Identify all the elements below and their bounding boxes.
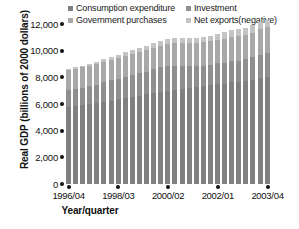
- bar: [243, 28, 248, 184]
- bar-segment-government: [172, 43, 177, 65]
- bar-segment-government: [137, 52, 142, 73]
- bar-segment-consumption: [229, 82, 234, 184]
- bar-segment-consumption: [94, 103, 99, 184]
- bar-segment-investment: [73, 89, 78, 106]
- legend-label: Consumption expenditure: [76, 3, 175, 14]
- bar: [66, 69, 71, 184]
- bar-segment-consumption: [187, 88, 192, 184]
- y-axis-tick: 12,000: [30, 18, 64, 30]
- bar-segment-government: [208, 41, 213, 64]
- bar: [87, 64, 92, 184]
- bar: [222, 32, 227, 184]
- bar-segment-consumption: [87, 104, 92, 184]
- y-axis-tick: 4,000: [35, 125, 64, 137]
- bar-segment-investment: [123, 77, 128, 98]
- bar-segment-government: [258, 29, 263, 54]
- y-axis-tick: 2,000: [35, 151, 64, 163]
- bar: [208, 36, 213, 184]
- x-axis-tick-dot-icon: [166, 185, 170, 189]
- bar: [80, 66, 85, 184]
- bar-segment-consumption: [215, 84, 220, 184]
- bar: [101, 59, 106, 184]
- bar-segment-consumption: [265, 77, 270, 184]
- bar-segment-consumption: [172, 90, 177, 184]
- bar-segment-government: [201, 42, 206, 65]
- bar: [229, 30, 234, 184]
- bar-series-container: [66, 24, 270, 184]
- bar-segment-investment: [94, 85, 99, 104]
- y-axis-tick-label: 12,000: [30, 19, 58, 30]
- bar-segment-investment: [144, 72, 149, 95]
- bar-segment-government: [144, 50, 149, 71]
- bar-segment-consumption: [144, 94, 149, 184]
- bar-segment-consumption: [73, 106, 78, 184]
- bar: [130, 50, 135, 184]
- bar-segment-consumption: [194, 87, 199, 184]
- bar-segment-investment: [180, 66, 185, 89]
- bar-segment-investment: [208, 65, 213, 85]
- bar-segment-net-exports: [236, 29, 241, 36]
- x-axis-tick-dot-icon: [266, 185, 270, 189]
- bar: [187, 38, 192, 184]
- bar-segment-consumption: [236, 82, 241, 184]
- bar-segment-net-exports: [265, 20, 270, 27]
- legend-entry-consumption-expenditure: Consumption expenditure: [68, 3, 186, 14]
- bar-segment-investment: [137, 73, 142, 95]
- square-swatch-icon: [68, 6, 73, 11]
- bar-segment-government: [80, 67, 85, 87]
- bar-segment-investment: [265, 53, 270, 77]
- bar: [265, 20, 270, 184]
- bar-segment-consumption: [250, 80, 255, 184]
- x-axis-tick-label: 2000/02: [152, 190, 184, 201]
- bar-segment-consumption: [130, 97, 135, 184]
- bar-segment-consumption: [116, 99, 121, 184]
- bar: [73, 67, 78, 184]
- x-axis-tick-label: 2002/01: [202, 190, 234, 201]
- bar-segment-government: [165, 44, 170, 66]
- y-axis: 02,0004,0006,0008,00010,00012,000: [16, 18, 64, 184]
- bar-segment-investment: [109, 80, 114, 100]
- bar-segment-investment: [258, 55, 263, 78]
- bar-segment-government: [187, 43, 192, 66]
- square-swatch-icon: [186, 18, 191, 23]
- bar: [151, 43, 156, 184]
- x-axis-tick-dot-icon: [116, 185, 120, 189]
- bar-segment-government: [194, 43, 199, 66]
- x-axis-tick-label: 1998/03: [102, 190, 134, 201]
- bar-segment-consumption: [137, 96, 142, 184]
- bar: [144, 46, 149, 184]
- bar-segment-consumption: [258, 78, 263, 184]
- bar: [158, 41, 163, 184]
- bar-segment-government: [66, 70, 71, 90]
- x-axis-tick-labels: 1996/041998/032000/022002/012003/04: [0, 190, 299, 204]
- bar: [123, 52, 128, 184]
- y-axis-tick-dot-icon: [60, 155, 64, 159]
- bar-segment-investment: [215, 63, 220, 84]
- bar: [236, 29, 241, 184]
- bar-segment-net-exports: [243, 28, 248, 35]
- bar: [180, 38, 185, 184]
- bar-segment-consumption: [222, 84, 227, 184]
- bar-segment-investment: [187, 66, 192, 88]
- bar-segment-government: [229, 37, 234, 61]
- bar-segment-investment: [229, 61, 234, 82]
- bar-segment-government: [222, 39, 227, 63]
- y-axis-tick-dot-icon: [60, 49, 64, 53]
- bar-segment-investment: [130, 75, 135, 97]
- bar-segment-government: [243, 35, 248, 60]
- y-axis-tick-label: 2,000: [35, 152, 58, 163]
- bar-segment-consumption: [80, 105, 85, 184]
- bar: [250, 25, 255, 184]
- bar: [165, 39, 170, 184]
- bar-segment-investment: [194, 66, 199, 87]
- bar-segment-government: [158, 46, 163, 68]
- bar-segment-investment: [158, 67, 163, 91]
- bar-segment-government: [116, 58, 121, 79]
- bar: [194, 38, 199, 184]
- bar-segment-consumption: [101, 102, 106, 184]
- bar-segment-consumption: [151, 93, 156, 184]
- square-swatch-icon: [186, 6, 191, 11]
- bar-segment-investment: [80, 88, 85, 106]
- bar: [215, 34, 220, 184]
- bar-segment-consumption: [180, 89, 185, 184]
